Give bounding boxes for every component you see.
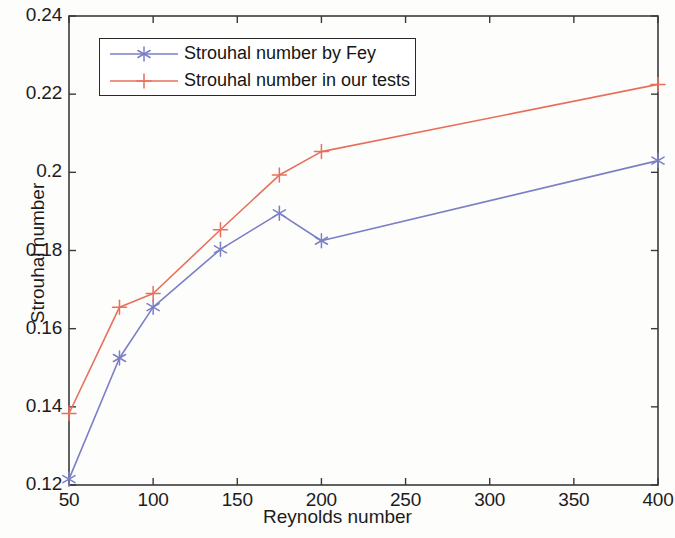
legend-swatch-asterisk-line (108, 42, 180, 66)
y-tick-5: 0.22 (26, 82, 62, 104)
legend-entry-our-tests: Strouhal number in our tests (100, 66, 415, 95)
y-tick-6: 0.24 (26, 4, 62, 26)
legend-label-our-tests: Strouhal number in our tests (184, 70, 410, 91)
legend: Strouhal number by Fey Strouhal number i… (99, 38, 416, 96)
x-axis-title: Reynolds number (0, 506, 675, 528)
series-0 (63, 154, 664, 487)
legend-entry-fey: Strouhal number by Fey (100, 39, 415, 68)
figure-container: 0.120.140.160.180.20.220.24 501001502002… (0, 0, 675, 538)
legend-label-fey: Strouhal number by Fey (184, 43, 376, 64)
y-axis-title: Strouhal number (27, 123, 49, 383)
y-tick-1: 0.14 (26, 395, 62, 417)
series-layer (62, 77, 665, 486)
series-1 (62, 77, 665, 420)
legend-swatch-plus-line (108, 69, 180, 93)
